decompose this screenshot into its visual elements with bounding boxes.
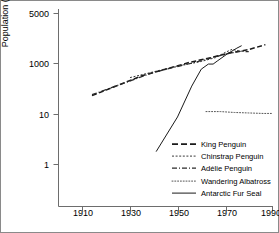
legend-label-king-penguin: King Penguin: [201, 139, 246, 151]
legend-label-wandering-albatross: Wandering Albatross: [201, 176, 271, 188]
x-tick-label-1970: 1970: [207, 208, 247, 218]
y-tick-label-1: 1: [15, 160, 49, 170]
legend-label-adelie-penguin: Adélie Penguin: [201, 163, 252, 175]
solid-line-key: [171, 187, 197, 199]
x-tick-label-1950: 1950: [159, 208, 199, 218]
y-tick-label-10: 10: [15, 110, 49, 120]
dotted-line-key: [171, 175, 197, 187]
series-paths: [92, 45, 273, 152]
series-adelie-penguin: [92, 51, 249, 94]
x-tick-label-1930: 1930: [111, 208, 151, 218]
y-axis-ticks: [54, 14, 59, 165]
chart-frame: Population (hundreds) 5000 1000 10 1 191…: [0, 0, 279, 233]
y-axis-title: Population (hundreds): [0, 0, 10, 63]
x-tick-label-1910: 1910: [63, 208, 103, 218]
dashed-line-key: [171, 138, 197, 150]
x-tick-label-1990: 1990: [251, 208, 279, 218]
legend-label-chinstrap-penguin: Chinstrap Penguin: [201, 151, 263, 163]
fine-dashed-line-key: [171, 150, 197, 162]
y-tick-label-1000: 1000: [15, 59, 49, 69]
legend-label-antarctic-fur-seal: Antarctic Fur Seal: [201, 188, 261, 200]
dash-dot-line-key: [171, 162, 197, 174]
series-wandering-albatross: [206, 112, 273, 114]
y-tick-label-5000: 5000: [15, 9, 49, 19]
